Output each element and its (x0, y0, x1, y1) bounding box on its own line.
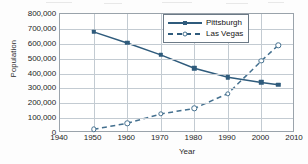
data-point-marker (159, 53, 163, 57)
x-tick-label: 1990 (218, 133, 235, 142)
chart-legend: Pittsburgh Las Vegas (163, 14, 249, 43)
x-axis-title: Year (0, 147, 308, 156)
y-tick-label: 700,000 (28, 23, 56, 32)
gridline-horizontal (60, 103, 293, 104)
y-tick-label: 300,000 (28, 83, 56, 92)
x-tick-label: 1960 (117, 133, 134, 142)
y-tick-label: 600,000 (28, 38, 56, 47)
gridline-horizontal (60, 88, 293, 89)
x-tick-label: 1950 (84, 133, 101, 142)
y-tick-label: 400,000 (28, 68, 56, 77)
x-tick-label: 1980 (185, 133, 202, 142)
legend-key-dashed-line-icon (168, 28, 202, 39)
gridline-vertical (127, 14, 128, 131)
legend-item-pittsburgh: Pittsburgh (168, 17, 243, 28)
y-tick-label: 100,000 (28, 113, 56, 122)
data-point-marker (192, 66, 196, 70)
population-line-chart: Population 0100,000200,000300,000400,000… (0, 0, 308, 164)
x-tick-label: 1940 (50, 133, 67, 142)
data-point-marker (259, 80, 263, 84)
legend-item-las-vegas: Las Vegas (168, 28, 243, 39)
legend-key-solid-line-icon (168, 17, 202, 28)
y-tick-label: 200,000 (28, 98, 56, 107)
data-point-marker (226, 75, 230, 79)
scan-artifact (268, 2, 284, 3)
data-point-marker (91, 30, 95, 34)
scan-artifact (162, 2, 192, 3)
gridline-horizontal (60, 44, 293, 45)
data-point-marker (276, 82, 280, 86)
legend-label: Pittsburgh (206, 18, 242, 27)
x-axis-tick-labels: 19401950196019701980199020002010 (0, 133, 308, 147)
y-tick-label: 500,000 (28, 53, 56, 62)
data-point-marker (125, 41, 129, 45)
x-tick-label: 2000 (252, 133, 269, 142)
y-tick-label: 800,000 (28, 9, 56, 18)
scan-artifact (226, 3, 248, 4)
gridline-horizontal (60, 74, 293, 75)
x-tick-label: 1970 (151, 133, 168, 142)
gridline-vertical (261, 14, 262, 131)
gridline-horizontal (60, 118, 293, 119)
x-tick-label: 2010 (285, 133, 302, 142)
scan-artifact (104, 3, 122, 4)
x-axis-title-text: Year (179, 147, 195, 156)
legend-label: Las Vegas (206, 29, 243, 38)
